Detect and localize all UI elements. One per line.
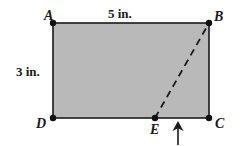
dimension-label-top: 5 in. bbox=[108, 7, 132, 20]
dimension-label-left: 3 in. bbox=[16, 65, 40, 78]
vertex-dot-e bbox=[152, 115, 158, 121]
rectangle-abcd bbox=[53, 23, 209, 118]
vertex-dot-d bbox=[50, 115, 56, 121]
up-arrow-icon bbox=[173, 121, 184, 145]
geometry-figure: A B C D E 5 in. 3 in. bbox=[0, 0, 241, 146]
vertex-label-c: C bbox=[215, 117, 224, 131]
vertex-dot-c bbox=[206, 115, 212, 121]
vertex-label-e: E bbox=[150, 123, 159, 137]
vertex-label-a: A bbox=[44, 9, 53, 23]
vertex-label-d: D bbox=[36, 117, 46, 131]
vertex-dot-b bbox=[206, 20, 212, 26]
vertex-label-b: B bbox=[214, 10, 223, 24]
